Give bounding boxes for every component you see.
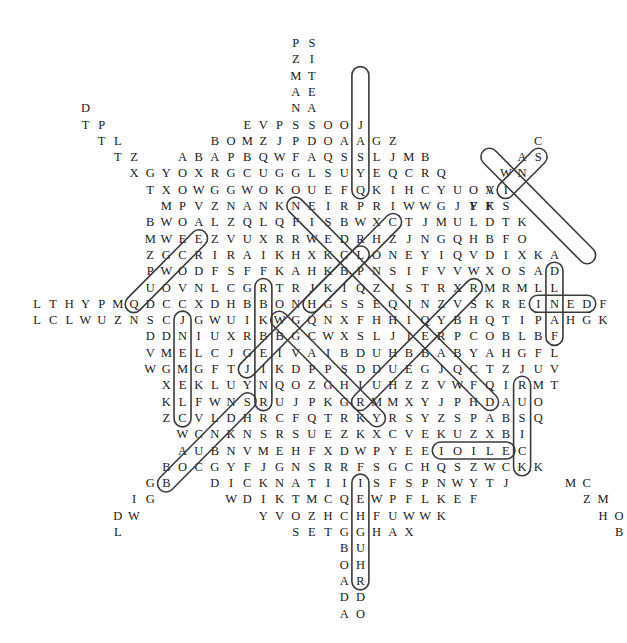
- grid-letter[interactable]: P: [352, 198, 368, 214]
- grid-letter[interactable]: F: [288, 410, 304, 426]
- grid-letter[interactable]: Z: [579, 491, 595, 507]
- grid-letter[interactable]: S: [304, 35, 320, 51]
- grid-letter[interactable]: E: [304, 198, 320, 214]
- grid-letter[interactable]: M: [158, 345, 174, 361]
- grid-letter[interactable]: T: [223, 361, 239, 377]
- grid-letter[interactable]: E: [401, 443, 417, 459]
- grid-letter[interactable]: E: [369, 165, 385, 181]
- grid-letter[interactable]: R: [385, 410, 401, 426]
- grid-letter[interactable]: U: [142, 280, 158, 296]
- grid-letter[interactable]: L: [29, 296, 45, 312]
- grid-letter[interactable]: J: [433, 361, 449, 377]
- grid-letter[interactable]: L: [546, 345, 562, 361]
- grid-letter[interactable]: P: [449, 394, 465, 410]
- grid-letter[interactable]: A: [304, 345, 320, 361]
- grid-letter[interactable]: O: [530, 394, 546, 410]
- grid-letter[interactable]: N: [288, 459, 304, 475]
- grid-letter[interactable]: W: [320, 328, 336, 344]
- grid-letter[interactable]: O: [320, 133, 336, 149]
- grid-letter[interactable]: S: [401, 280, 417, 296]
- grid-letter[interactable]: L: [207, 410, 223, 426]
- grid-letter[interactable]: X: [158, 182, 174, 198]
- grid-letter[interactable]: A: [514, 149, 530, 165]
- grid-letter[interactable]: M: [595, 491, 611, 507]
- grid-letter[interactable]: I: [466, 443, 482, 459]
- grid-letter[interactable]: P: [369, 443, 385, 459]
- grid-letter[interactable]: V: [449, 296, 465, 312]
- grid-letter[interactable]: H: [385, 312, 401, 328]
- grid-letter[interactable]: F: [466, 491, 482, 507]
- grid-letter[interactable]: H: [288, 247, 304, 263]
- grid-letter[interactable]: L: [466, 214, 482, 230]
- grid-letter[interactable]: O: [336, 557, 352, 573]
- grid-letter[interactable]: B: [449, 345, 465, 361]
- grid-letter[interactable]: A: [175, 149, 191, 165]
- grid-letter[interactable]: F: [595, 296, 611, 312]
- grid-letter[interactable]: E: [255, 345, 271, 361]
- grid-letter[interactable]: O: [175, 263, 191, 279]
- grid-letter[interactable]: K: [272, 491, 288, 507]
- grid-letter[interactable]: G: [191, 361, 207, 377]
- grid-letter[interactable]: G: [272, 165, 288, 181]
- grid-letter[interactable]: T: [417, 280, 433, 296]
- grid-letter[interactable]: X: [482, 426, 498, 442]
- grid-letter[interactable]: E: [239, 117, 255, 133]
- grid-letter[interactable]: Q: [530, 410, 546, 426]
- grid-letter[interactable]: R: [369, 198, 385, 214]
- grid-letter[interactable]: T: [272, 280, 288, 296]
- grid-letter[interactable]: L: [417, 491, 433, 507]
- grid-letter[interactable]: Z: [385, 133, 401, 149]
- grid-letter[interactable]: M: [385, 394, 401, 410]
- grid-letter[interactable]: Z: [304, 508, 320, 524]
- grid-letter[interactable]: R: [514, 377, 530, 393]
- grid-letter[interactable]: W: [142, 361, 158, 377]
- grid-letter[interactable]: T: [94, 133, 110, 149]
- grid-letter[interactable]: K: [433, 491, 449, 507]
- grid-letter[interactable]: P: [94, 296, 110, 312]
- grid-letter[interactable]: H: [352, 508, 368, 524]
- grid-letter[interactable]: R: [255, 394, 271, 410]
- grid-letter[interactable]: E: [320, 426, 336, 442]
- grid-letter[interactable]: A: [288, 475, 304, 491]
- grid-letter[interactable]: R: [272, 426, 288, 442]
- grid-letter[interactable]: B: [239, 296, 255, 312]
- grid-letter[interactable]: A: [352, 133, 368, 149]
- grid-letter[interactable]: V: [255, 117, 271, 133]
- grid-letter[interactable]: W: [417, 508, 433, 524]
- grid-letter[interactable]: V: [482, 182, 498, 198]
- grid-letter[interactable]: U: [514, 394, 530, 410]
- grid-letter[interactable]: N: [191, 280, 207, 296]
- grid-letter[interactable]: W: [449, 475, 465, 491]
- grid-letter[interactable]: T: [320, 524, 336, 540]
- grid-letter[interactable]: P: [175, 198, 191, 214]
- grid-letter[interactable]: L: [175, 394, 191, 410]
- grid-letter[interactable]: I: [530, 296, 546, 312]
- grid-letter[interactable]: B: [336, 263, 352, 279]
- grid-letter[interactable]: F: [498, 231, 514, 247]
- grid-letter[interactable]: W: [498, 165, 514, 181]
- grid-letter[interactable]: L: [207, 377, 223, 393]
- grid-letter[interactable]: I: [304, 51, 320, 67]
- grid-letter[interactable]: I: [385, 198, 401, 214]
- grid-letter[interactable]: D: [336, 443, 352, 459]
- grid-letter[interactable]: M: [304, 491, 320, 507]
- grid-letter[interactable]: U: [336, 165, 352, 181]
- grid-letter[interactable]: T: [288, 491, 304, 507]
- grid-letter[interactable]: F: [401, 491, 417, 507]
- grid-letter[interactable]: V: [239, 443, 255, 459]
- grid-letter[interactable]: C: [530, 133, 546, 149]
- grid-letter[interactable]: I: [255, 361, 271, 377]
- grid-letter[interactable]: X: [158, 377, 174, 393]
- grid-letter[interactable]: W: [401, 508, 417, 524]
- grid-letter[interactable]: S: [498, 198, 514, 214]
- grid-letter[interactable]: C: [239, 165, 255, 181]
- grid-letter[interactable]: I: [304, 214, 320, 230]
- grid-letter[interactable]: S: [255, 426, 271, 442]
- grid-letter[interactable]: V: [175, 280, 191, 296]
- grid-letter[interactable]: D: [336, 231, 352, 247]
- grid-letter[interactable]: R: [336, 198, 352, 214]
- grid-letter[interactable]: G: [336, 394, 352, 410]
- grid-letter[interactable]: P: [466, 410, 482, 426]
- grid-letter[interactable]: V: [223, 231, 239, 247]
- grid-letter[interactable]: Z: [385, 231, 401, 247]
